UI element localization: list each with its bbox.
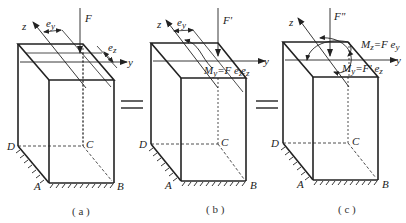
equals-sign-1 — [121, 101, 143, 108]
z-axis-a — [33, 22, 86, 88]
corner-b-c: B — [382, 178, 389, 190]
y-axis-label-c: y — [395, 54, 401, 66]
corner-c-b: C — [221, 136, 229, 148]
corner-a-b: A — [164, 179, 172, 191]
force-label-b: F' — [222, 14, 233, 26]
caption-b: ( b ) — [206, 203, 225, 216]
force-label-c: F" — [333, 10, 346, 22]
corner-a-a: A — [33, 180, 41, 192]
corner-c-a: C — [86, 138, 94, 150]
z-axis-label-c: z — [288, 16, 294, 28]
corner-b-a: B — [117, 180, 124, 192]
ecc-y-label-b: ey — [177, 16, 186, 30]
z-axis-label-b: z — [156, 18, 162, 30]
diagram-canvas: F z y ey ez D C A B ( a ) — [0, 0, 406, 223]
caption-a: ( a ) — [72, 205, 90, 218]
prism-a — [18, 44, 114, 183]
corner-d-a: D — [6, 140, 15, 152]
y-axis-label-b: y — [263, 55, 269, 67]
panel-b: F' z y ey ez My=F ez D C A B ( b ) — [138, 8, 269, 216]
force-label-a: F — [84, 12, 92, 24]
corner-a-c: A — [296, 178, 304, 190]
ecc-y-label-a: ey — [46, 17, 55, 31]
moment-y-label-c: My=F' ez — [341, 62, 383, 76]
moment-label-b: My=F ez — [203, 64, 243, 78]
corner-d-c: D — [270, 137, 279, 149]
z-axis-label-a: z — [21, 20, 27, 32]
corner-c-c: C — [352, 135, 360, 147]
corner-b-b: B — [250, 179, 257, 191]
moment-z-label-c: Mz=F ey — [360, 38, 399, 52]
equals-sign-2 — [256, 101, 278, 108]
panel-a: F z y ey ez D C A B ( a ) — [6, 8, 133, 218]
moment-arc-z-c — [307, 41, 351, 60]
y-axis-label-a: y — [127, 56, 133, 68]
caption-c: ( c ) — [338, 203, 356, 216]
panel-c: F" z y Mz=F ey My=F' ez D C A B ( c ) — [270, 8, 401, 216]
corner-d-b: D — [138, 138, 147, 150]
ecc-z-label-a: ez — [108, 41, 117, 55]
